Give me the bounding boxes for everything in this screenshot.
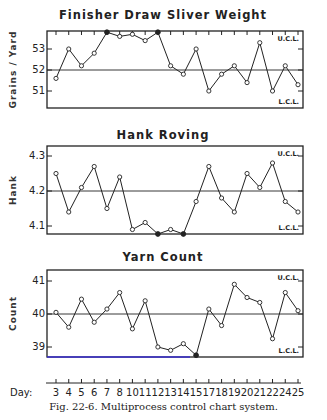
chart-frame [47, 31, 303, 108]
data-point [169, 348, 173, 352]
day-tick-label: 3 [53, 387, 59, 398]
y-tick-label: 4.1 [29, 220, 45, 231]
ucl-label: U.C.L. [277, 150, 299, 158]
data-point [245, 171, 249, 175]
data-point [232, 64, 236, 68]
chart-title: Yarn Count [121, 250, 203, 264]
out-of-control-point [194, 353, 199, 358]
lcl-label: L.C.L. [279, 98, 299, 106]
day-tick-label: 19 [228, 387, 241, 398]
chart-title: Hank Roving [117, 128, 210, 142]
data-point [207, 164, 211, 168]
y-tick-label: 52 [32, 64, 45, 75]
data-point [79, 185, 83, 189]
data-point [143, 299, 147, 303]
data-point [194, 199, 198, 203]
out-of-control-point [155, 232, 160, 237]
data-point [130, 227, 134, 231]
data-point [143, 220, 147, 224]
day-tick-label: 22 [266, 387, 279, 398]
control-chart-panel-2: Hank Roving4.14.24.3HankU.C.L.L.C.L. [8, 128, 303, 236]
lcl-label: L.C.L. [279, 347, 299, 355]
out-of-control-point [155, 30, 160, 35]
chart-frame [47, 270, 303, 357]
out-of-control-point [181, 232, 186, 237]
control-chart-figure: Finisher Draw Sliver Weight515253Grains … [0, 0, 327, 420]
day-tick-label: 4 [66, 387, 72, 398]
day-axis: 3456781011121314151718192021222425Day: [10, 379, 304, 398]
day-tick-label: 21 [253, 387, 266, 398]
y-tick-label: 41 [32, 275, 45, 286]
control-chart-panel-1: Finisher Draw Sliver Weight515253Grains … [8, 8, 303, 108]
day-tick-label: 5 [78, 387, 84, 398]
day-tick-label: 18 [215, 387, 228, 398]
data-point [118, 34, 122, 38]
day-tick-label: 11 [139, 387, 152, 398]
data-point [156, 345, 160, 349]
chart-frame [47, 146, 303, 234]
day-tick-label: 25 [292, 387, 305, 398]
figure-caption: Fig. 22-6. Multiprocess control chart sy… [0, 401, 327, 412]
day-tick-label: 20 [241, 387, 254, 398]
data-point [105, 307, 109, 311]
data-point [219, 196, 223, 200]
y-axis-label: Hank [8, 175, 18, 205]
data-point [54, 76, 58, 80]
day-tick-label: 14 [177, 387, 190, 398]
y-tick-label: 4.2 [29, 185, 45, 196]
data-point [245, 295, 249, 299]
day-tick-label: 10 [126, 387, 139, 398]
lcl-label: L.C.L. [279, 224, 299, 232]
y-tick-label: 53 [32, 43, 45, 54]
day-tick-label: 15 [190, 387, 203, 398]
data-point [67, 210, 71, 214]
data-point [283, 64, 287, 68]
data-point [258, 300, 262, 304]
data-point [169, 227, 173, 231]
data-point [143, 39, 147, 43]
control-chart-panel-3: Yarn Count394041CountU.C.L.L.C.L. [8, 250, 303, 358]
out-of-control-point [105, 30, 110, 35]
data-point [54, 171, 58, 175]
y-axis-label: Count [8, 296, 18, 331]
data-point [118, 175, 122, 179]
data-point [296, 309, 300, 313]
data-point [219, 72, 223, 76]
data-point [232, 210, 236, 214]
data-point [232, 282, 236, 286]
data-point [283, 199, 287, 203]
data-point [258, 41, 262, 45]
data-series-line [56, 163, 298, 234]
data-point [79, 64, 83, 68]
y-tick-label: 39 [32, 341, 45, 352]
data-point [245, 81, 249, 85]
chart-title: Finisher Draw Sliver Weight [59, 8, 267, 22]
data-point [92, 164, 96, 168]
day-tick-label: 7 [104, 387, 110, 398]
day-tick-label: 24 [279, 387, 292, 398]
data-point [258, 185, 262, 189]
data-point [181, 72, 185, 76]
day-tick-label: 6 [91, 387, 97, 398]
data-point [92, 51, 96, 55]
data-point [54, 310, 58, 314]
data-point [169, 64, 173, 68]
data-point [130, 32, 134, 36]
data-point [283, 290, 287, 294]
y-tick-label: 40 [32, 308, 45, 319]
data-point [194, 47, 198, 51]
data-point [270, 89, 274, 93]
day-axis-label: Day: [10, 387, 32, 398]
data-point [130, 327, 134, 331]
data-point [207, 89, 211, 93]
y-tick-label: 4.3 [29, 150, 45, 161]
y-axis-label: Grains / Yard [8, 31, 18, 109]
data-point [67, 325, 71, 329]
data-series-line [56, 284, 298, 355]
day-tick-label: 17 [202, 387, 215, 398]
data-point [296, 210, 300, 214]
day-tick-label: 13 [164, 387, 177, 398]
data-point [118, 290, 122, 294]
data-point [296, 83, 300, 87]
ucl-label: U.C.L. [277, 35, 299, 43]
